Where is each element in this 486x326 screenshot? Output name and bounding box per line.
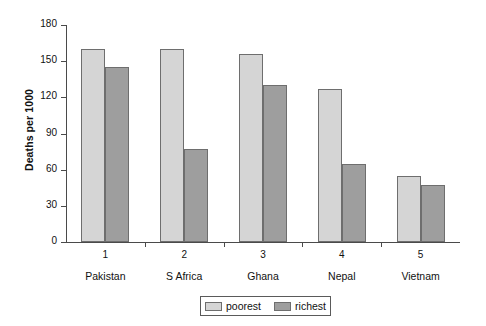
legend-label-richest: richest (295, 300, 326, 312)
x-axis-label-pakistan: Pakistan (60, 270, 150, 282)
chart-legend: poorest richest (200, 296, 331, 316)
bar-chart: Deaths per 1000 0306090120150180 1Pakist… (0, 0, 486, 326)
x-tick-mark (381, 242, 382, 247)
x-tick-mark (145, 242, 146, 247)
y-tick-mark (61, 242, 66, 243)
x-axis-label-s-africa: S Africa (139, 270, 229, 282)
bar-s-africa-richest (184, 149, 208, 242)
bar-s-africa-poorest (160, 49, 184, 242)
x-axis-line (66, 242, 460, 243)
x-tick-number-3: 3 (233, 249, 293, 260)
x-tick-mark (302, 242, 303, 247)
y-tick-label: 60 (46, 163, 57, 174)
y-tick-label: 180 (40, 18, 57, 29)
legend-swatch-richest-icon (274, 302, 291, 311)
x-tick-mark (224, 242, 225, 247)
legend-entry-poorest[interactable]: poorest (205, 300, 261, 312)
x-tick-number-1: 1 (75, 249, 135, 260)
plot-area (66, 25, 460, 242)
x-axis-label-vietnam: Vietnam (376, 270, 466, 282)
bar-pakistan-poorest (81, 49, 105, 242)
y-tick-label: 150 (40, 54, 57, 65)
bar-nepal-richest (342, 164, 366, 242)
legend-entry-richest[interactable]: richest (274, 300, 326, 312)
bar-ghana-richest (263, 85, 287, 242)
x-tick-number-5: 5 (391, 249, 451, 260)
y-tick-label: 120 (40, 90, 57, 101)
x-axis-label-ghana: Ghana (218, 270, 308, 282)
y-tick-label: 30 (46, 199, 57, 210)
x-tick-number-4: 4 (312, 249, 372, 260)
bar-ghana-poorest (239, 54, 263, 242)
y-tick-label: 0 (51, 235, 57, 246)
legend-label-poorest: poorest (226, 300, 261, 312)
bar-pakistan-richest (105, 67, 129, 242)
x-axis-label-nepal: Nepal (297, 270, 387, 282)
x-tick-number-2: 2 (154, 249, 214, 260)
bar-vietnam-poorest (397, 176, 421, 242)
bar-nepal-poorest (318, 89, 342, 242)
legend-swatch-poorest-icon (205, 302, 222, 311)
bar-vietnam-richest (421, 185, 445, 242)
y-tick-label: 90 (46, 127, 57, 138)
y-axis-title: Deaths per 1000 (23, 60, 35, 200)
